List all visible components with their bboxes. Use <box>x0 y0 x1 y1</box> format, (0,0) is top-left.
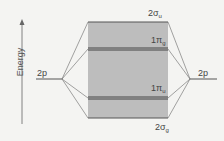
mo-label-sub: g <box>166 127 169 133</box>
mo-diagram-svg <box>0 0 224 141</box>
energy-axis-label: Energy <box>15 45 25 79</box>
mo-label-1pi-g: 1πg <box>151 36 166 46</box>
mo-label-sub: u <box>159 13 162 19</box>
mo-label-text: 2σ <box>148 8 159 18</box>
left-correlation-lines <box>62 22 88 118</box>
mo-label-text: 2σ <box>155 122 166 132</box>
mo-label-text: 1π <box>151 83 162 93</box>
left-2p-label: 2p <box>37 69 47 78</box>
mo-label-2sigma-u: 2σu <box>148 9 162 19</box>
right-correlation-lines <box>168 22 190 118</box>
mo-label-sub: g <box>162 40 165 46</box>
mo-label-1pi-u: 1πu <box>151 84 166 94</box>
mo-label-text: 1π <box>151 35 162 45</box>
mo-label-2sigma-g: 2σg <box>155 123 169 133</box>
mo-label-sub: u <box>162 88 165 94</box>
right-2p-label: 2p <box>198 69 208 78</box>
